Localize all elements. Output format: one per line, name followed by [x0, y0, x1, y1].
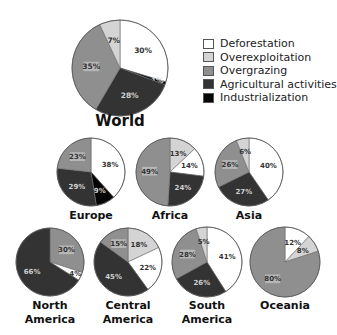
- slice-label: 30%: [58, 246, 75, 254]
- legend-item-overexploitation: Overexploitation: [203, 51, 337, 65]
- slice-label: 27%: [235, 188, 252, 196]
- slice-label: 29%: [69, 183, 86, 191]
- slice-label: 41%: [219, 253, 236, 261]
- legend-swatch-agricultural: [203, 79, 214, 89]
- legend-label: Overexploitation: [220, 51, 311, 64]
- pie-north-america: 30%4%66%NorthAmerica: [16, 228, 84, 326]
- legend-item-overgrazing: Overgrazing: [203, 64, 337, 78]
- pie-title: America: [103, 313, 154, 326]
- legend-swatch-deforestation: [203, 39, 214, 49]
- pie-europe: 38%9%29%23%Europe: [57, 138, 125, 222]
- slice-label: 14%: [181, 162, 198, 170]
- slice-label: 6%: [239, 148, 251, 156]
- slice-label: 15%: [110, 240, 127, 248]
- pie-title: Europe: [69, 209, 113, 222]
- pie-title: World: [95, 112, 145, 130]
- legend-item-deforestation: Deforestation: [203, 37, 337, 51]
- pie-title: North: [32, 299, 67, 312]
- pie-title: America: [182, 313, 233, 326]
- pie-south-america: 41%26%28%5%SouthAmerica: [172, 227, 242, 326]
- legend-label: Deforestation: [220, 37, 295, 50]
- slice-label: 49%: [141, 168, 158, 176]
- pie-oceania: 12%8%80%Oceania: [250, 227, 320, 312]
- pie-title: Central: [105, 299, 150, 312]
- slice-label: 12%: [284, 239, 301, 247]
- slice-label: 30%: [134, 46, 152, 55]
- pie-title: America: [25, 313, 76, 326]
- legend-label: Industrialization: [220, 91, 308, 104]
- pie-africa: 13%14%24%49%Africa: [136, 138, 204, 222]
- legend-swatch-overexploitation: [203, 52, 214, 62]
- legend: Deforestation Overexploitation Overgrazi…: [203, 37, 337, 105]
- slice-label: 9%: [94, 187, 106, 195]
- slice-label: 7%: [107, 36, 120, 45]
- pie-asia: 40%27%26%6%Asia: [215, 138, 283, 222]
- slice-label: 28%: [179, 251, 196, 259]
- slice-label: 13%: [170, 150, 187, 158]
- slice-label: 45%: [105, 273, 122, 281]
- slice-label: 40%: [260, 162, 277, 170]
- slice-label: 80%: [264, 275, 281, 283]
- legend-item-industrialization: Industrialization: [203, 91, 337, 105]
- legend-label: Agricultural activities: [220, 78, 337, 91]
- slice-label: 8%: [297, 247, 309, 255]
- slice-label: 24%: [175, 184, 192, 192]
- slice-label: 26%: [222, 161, 239, 169]
- legend-swatch-overgrazing: [203, 66, 214, 76]
- slice-label: 66%: [24, 268, 41, 276]
- legend-swatch-industrialization: [203, 93, 214, 103]
- slice-label: 5%: [198, 238, 210, 246]
- slice-label: 35%: [82, 62, 100, 71]
- slice-label: 22%: [139, 264, 156, 272]
- slice-label: 23%: [69, 153, 86, 161]
- pie-title: Asia: [236, 209, 262, 222]
- pie-title: South: [189, 299, 225, 312]
- slice-label: 18%: [131, 241, 148, 249]
- pie-title: Africa: [152, 209, 188, 222]
- pie-title: Oceania: [260, 299, 310, 312]
- pie-central-america: 18%22%45%15%CentralAmerica: [94, 228, 162, 326]
- slice-label: 28%: [121, 91, 139, 100]
- slice-label: 26%: [193, 279, 210, 287]
- legend-label: Overgrazing: [220, 64, 287, 77]
- slice-label: 38%: [102, 161, 119, 169]
- pie-world: 30%1%28%35%7%World: [72, 20, 168, 130]
- legend-item-agricultural: Agricultural activities: [203, 78, 337, 92]
